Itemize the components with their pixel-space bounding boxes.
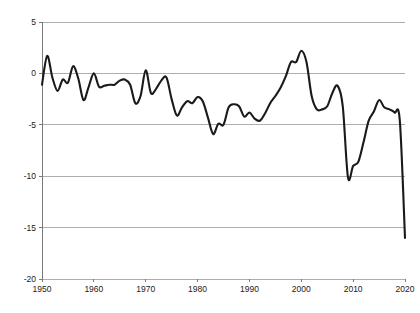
x-tick-label-2020: 2020 — [396, 284, 415, 294]
line-chart: 50-5-10-15-20 19501960197019801990200020… — [0, 0, 420, 313]
x-tick-label-1960: 1960 — [84, 284, 103, 294]
x-axis-tick-labels: 19501960197019801990200020102020 — [33, 284, 415, 294]
y-axis-tick-labels: 50-5-10-15-20 — [24, 17, 37, 284]
y-tick-label-0: 0 — [31, 68, 36, 78]
x-tick-label-2010: 2010 — [344, 284, 363, 294]
tick-marks — [39, 22, 405, 282]
x-tick-label-1950: 1950 — [33, 284, 52, 294]
y-tick-label--20: -20 — [24, 274, 37, 284]
data-line-series-1 — [42, 51, 405, 238]
chart-container: 50-5-10-15-20 19501960197019801990200020… — [0, 0, 420, 313]
y-tick-label-5: 5 — [31, 17, 36, 27]
x-tick-label-1980: 1980 — [188, 284, 207, 294]
y-tick-label--5: -5 — [28, 120, 36, 130]
x-tick-label-1970: 1970 — [136, 284, 155, 294]
x-tick-label-1990: 1990 — [240, 284, 259, 294]
y-tick-label--10: -10 — [24, 171, 37, 181]
y-tick-label--15: -15 — [24, 223, 37, 233]
x-tick-label-2000: 2000 — [292, 284, 311, 294]
gridlines — [42, 22, 405, 279]
